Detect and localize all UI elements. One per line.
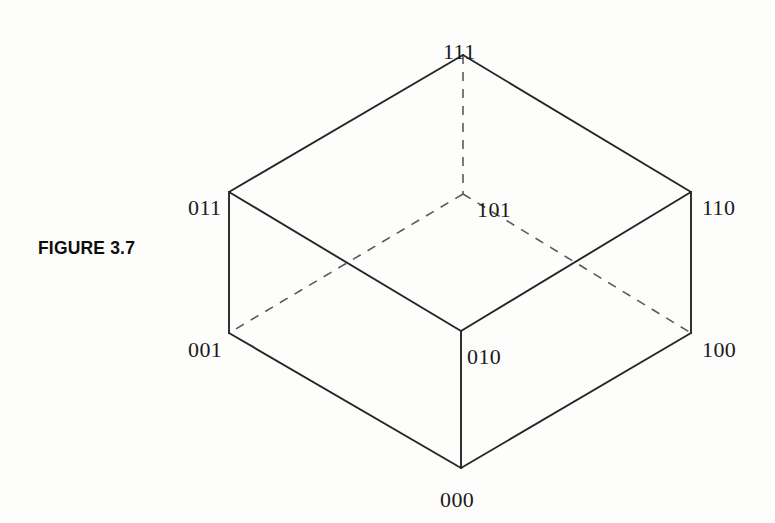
edge-111-011: [229, 55, 463, 192]
hidden-edges-group: [229, 55, 691, 333]
vertex-label-011: 011: [188, 195, 221, 220]
figure-page: 111011110101001100010000 FIGURE 3.7: [0, 0, 775, 523]
figure-caption: FIGURE 3.7: [38, 237, 135, 259]
edge-111-110: [463, 55, 691, 192]
vertex-label-000: 000: [440, 487, 474, 512]
edge-011-010: [229, 192, 461, 331]
vertex-label-100: 100: [702, 337, 736, 362]
cube-diagram: 111011110101001100010000: [0, 0, 775, 523]
vertex-label-001: 001: [188, 337, 222, 362]
vertex-labels-group: 111011110101001100010000: [188, 39, 736, 512]
vertex-label-101: 101: [477, 197, 511, 222]
vertex-label-110: 110: [702, 195, 735, 220]
edge-001-000: [229, 333, 461, 468]
vertex-label-111: 111: [443, 39, 476, 64]
visible-edges-group: [229, 55, 691, 468]
vertex-label-010: 010: [467, 344, 501, 369]
